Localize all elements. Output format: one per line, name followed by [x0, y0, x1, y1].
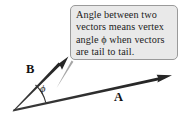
vector-b-shaft: [12, 63, 61, 112]
vector-angle-figure: Angle between two vectors means vertex a…: [0, 0, 189, 119]
vector-a-label: A: [114, 91, 123, 104]
callout-line-4: are tail to tail.: [76, 46, 173, 58]
angle-phi-label: ϕ: [40, 84, 45, 95]
vector-b-label: B: [26, 63, 34, 76]
callout-line-3: angle ϕ when vectors: [76, 34, 173, 46]
callout-line-1: Angle between two: [76, 9, 173, 21]
callout-line-2: vectors means vertex: [76, 21, 173, 33]
vector-a-arrowhead: [157, 75, 172, 83]
vector-a-shaft: [13, 77, 160, 112]
callout-box: Angle between two vectors means vertex a…: [70, 5, 178, 60]
